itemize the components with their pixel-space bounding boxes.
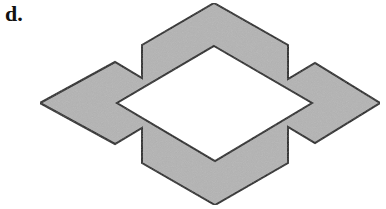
gray-frame-shape [40, 3, 380, 205]
diamond-frame-figure [0, 0, 386, 209]
